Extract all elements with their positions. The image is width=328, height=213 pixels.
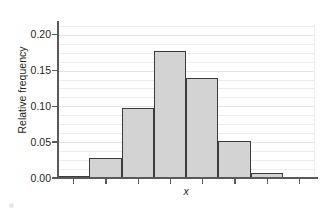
y-axis-tick-mark (52, 106, 58, 108)
y-axis-tick-label: 0.05 (22, 137, 51, 148)
y-axis-tick-label: 0.20 (22, 29, 51, 40)
x-axis-tick-mark (299, 179, 300, 184)
histogram-bar (154, 51, 186, 179)
y-axis-tick-mark (52, 177, 58, 179)
y-axis-tick-mark (52, 141, 58, 143)
histogram-figure: Relative frequency 0.000.050.100.150.20 … (0, 0, 328, 213)
x-axis-tick-mark (73, 179, 74, 184)
x-axis-tick-mark (267, 179, 268, 184)
y-axis-tick-mark (52, 34, 58, 36)
x-axis-tick-mark (234, 179, 235, 184)
y-axis-tick-label: 0.00 (22, 173, 51, 184)
x-axis-tick-mark (202, 179, 203, 184)
y-axis-tick-label: 0.15 (22, 65, 51, 76)
bar-series (57, 24, 315, 178)
y-axis-tick-mark (52, 70, 58, 72)
scan-artifact (9, 203, 14, 208)
x-axis-title: x (57, 185, 315, 197)
y-axis-tick-labels: 0.000.050.100.150.20 (22, 0, 51, 213)
x-axis-tick-mark (170, 179, 171, 184)
y-axis-line (57, 21, 59, 178)
histogram-bar (186, 78, 218, 178)
histogram-bar (89, 158, 121, 178)
histogram-bar (218, 141, 250, 178)
y-axis-tick-label: 0.10 (22, 101, 51, 112)
x-axis-line (57, 177, 318, 179)
x-axis-tick-mark (105, 179, 106, 184)
histogram-bar (122, 108, 154, 178)
x-axis-tick-mark (138, 179, 139, 184)
